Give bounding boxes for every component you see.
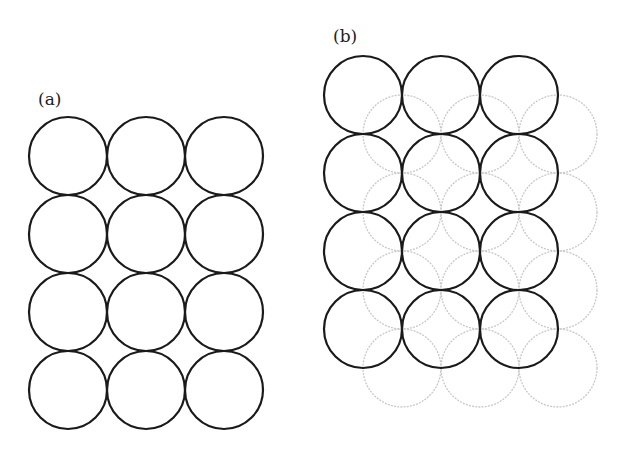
light-circle [519, 95, 597, 173]
panel-b-circles [324, 56, 597, 407]
panel-b-offset-layers: (b) [324, 26, 597, 407]
circle-packing-diagram: (a) (b) [0, 0, 620, 460]
dark-circle [185, 117, 263, 195]
dark-circle [107, 273, 185, 351]
dark-circle [29, 195, 107, 273]
dark-circle [185, 273, 263, 351]
light-circle [441, 173, 519, 251]
dark-circle [480, 212, 558, 290]
light-circle [363, 329, 441, 407]
panel-a-label: (a) [38, 89, 61, 109]
light-circle [363, 173, 441, 251]
dark-circle [402, 290, 480, 368]
light-circle [519, 173, 597, 251]
dark-circle [324, 290, 402, 368]
light-circle [441, 95, 519, 173]
dark-circle [480, 56, 558, 134]
dark-circle [29, 117, 107, 195]
dark-circle [324, 134, 402, 212]
dark-circle [480, 134, 558, 212]
dark-circle [324, 56, 402, 134]
dark-circle [29, 351, 107, 429]
dark-circle [107, 117, 185, 195]
light-circle [519, 329, 597, 407]
dark-circle [324, 212, 402, 290]
light-circle [363, 251, 441, 329]
dark-circle [480, 290, 558, 368]
panel-a-circles [29, 117, 263, 429]
light-circle [519, 251, 597, 329]
dark-circle [402, 212, 480, 290]
dark-circle [107, 195, 185, 273]
dark-circle [402, 134, 480, 212]
dark-circle [185, 195, 263, 273]
dark-circle [402, 56, 480, 134]
dark-circle [185, 351, 263, 429]
panel-b-label: (b) [333, 26, 357, 46]
dark-circle [29, 273, 107, 351]
dark-circle [107, 351, 185, 429]
panel-a-square-packing: (a) [29, 89, 263, 429]
light-circle [441, 251, 519, 329]
light-circle [441, 329, 519, 407]
light-circle [363, 95, 441, 173]
